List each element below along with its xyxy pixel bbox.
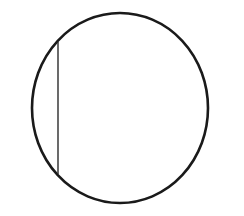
figure-canvas xyxy=(0,0,244,216)
geometry-figure xyxy=(0,0,244,216)
